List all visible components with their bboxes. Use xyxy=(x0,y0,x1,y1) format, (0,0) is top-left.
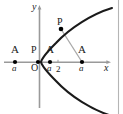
label-x-axis: x xyxy=(104,63,108,73)
label-y-axis: y xyxy=(32,2,36,12)
point-curve-P xyxy=(59,27,64,32)
label-left-P: P xyxy=(31,45,37,55)
label-vertex-A-sub: a xyxy=(47,64,52,73)
label-left-A: A xyxy=(11,44,19,55)
math-figure-parabola: A a P A a 2 A a P O x y xyxy=(0,0,123,114)
label-origin: O xyxy=(31,63,38,73)
label-curve-P: P xyxy=(57,17,63,27)
y-axis-arrow-icon xyxy=(38,5,42,10)
label-right-A: A xyxy=(78,44,86,55)
label-tick-two: 2 xyxy=(56,65,61,74)
label-left-A-sub: a xyxy=(12,64,17,73)
label-right-A-sub: a xyxy=(79,64,84,73)
label-vertex-A: A xyxy=(46,44,54,55)
